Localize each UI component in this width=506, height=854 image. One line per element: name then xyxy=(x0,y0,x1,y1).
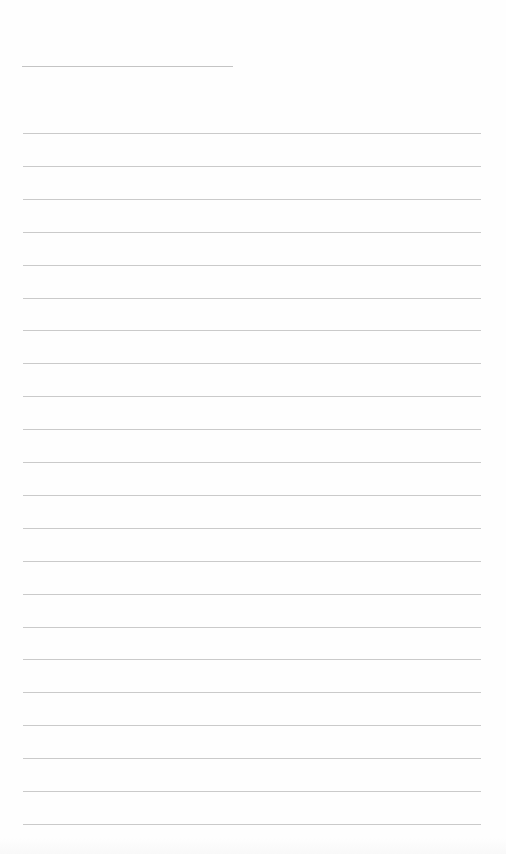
ruled-line xyxy=(23,462,481,463)
ruled-line xyxy=(23,363,481,364)
ruled-lines xyxy=(23,0,481,854)
ruled-line xyxy=(23,133,481,134)
ruled-line xyxy=(23,199,481,200)
ruled-line xyxy=(23,627,481,628)
ruled-line xyxy=(23,330,481,331)
ruled-line xyxy=(23,265,481,266)
ruled-line xyxy=(23,824,481,825)
ruled-line xyxy=(23,692,481,693)
ruled-line xyxy=(23,429,481,430)
notebook-page xyxy=(0,0,506,854)
ruled-line xyxy=(23,166,481,167)
paper-show-through xyxy=(0,838,506,854)
ruled-line xyxy=(23,758,481,759)
ruled-line xyxy=(23,396,481,397)
ruled-line xyxy=(23,659,481,660)
ruled-line xyxy=(23,298,481,299)
ruled-line xyxy=(23,528,481,529)
ruled-line xyxy=(23,561,481,562)
ruled-line xyxy=(23,495,481,496)
ruled-line xyxy=(23,232,481,233)
ruled-line xyxy=(23,791,481,792)
ruled-line xyxy=(23,725,481,726)
ruled-line xyxy=(23,594,481,595)
